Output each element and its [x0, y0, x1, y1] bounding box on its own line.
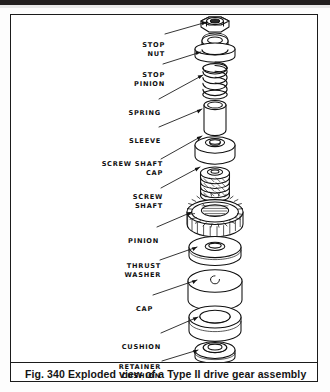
callout-label-stop-pinion: STOP PINION [105, 71, 165, 88]
exploded-view-drawing [11, 15, 319, 363]
part-sleeve-drawing [204, 100, 226, 135]
leader-stop-pinion [163, 52, 201, 64]
part-cushion-drawing [189, 306, 241, 341]
leader-stop-nut [165, 22, 207, 34]
figure-illustration-area: STOP NUT STOP PINION SPRING SLEEVE SCREW… [11, 15, 317, 363]
part-screw-shaft-cap-drawing [195, 137, 235, 164]
callout-label-cushion: CUSHION [99, 343, 161, 352]
part-screw-shaft-drawing [201, 167, 230, 202]
leader-pinion [157, 212, 192, 227]
callout-label-cap: CAP [107, 305, 153, 314]
leader-cap [153, 280, 197, 295]
callout-label-sleeve: SLEEVE [105, 137, 161, 146]
part-cap-drawing [188, 270, 242, 311]
leader-cushion [161, 317, 198, 333]
callout-label-pinion: PINION [103, 237, 159, 246]
part-retainer-cushion-drawing [195, 342, 235, 363]
part-thrust-washer-drawing [189, 236, 241, 265]
part-stop-nut-drawing [201, 17, 229, 32]
part-stop-pinion-drawing [195, 33, 235, 62]
leader-screw-shaft [161, 167, 200, 188]
callout-label-screw-shaft: SCREW SHAFT [105, 193, 163, 210]
leader-screw-shaft-cap [161, 136, 202, 159]
page-canvas: STOP NUT STOP PINION SPRING SLEEVE SCREW… [0, 0, 330, 392]
callout-label-stop-nut: STOP NUT [113, 41, 165, 58]
figure-frame: STOP NUT STOP PINION SPRING SLEEVE SCREW… [10, 14, 318, 382]
callout-label-spring: SPRING [105, 109, 161, 118]
part-spring-drawing [203, 62, 227, 99]
leader-arrowheads [187, 21, 207, 353]
leader-thrust-washer [160, 247, 197, 260]
callout-label-thrust-washer: THRUST WASHER [99, 262, 161, 279]
leader-spring [159, 75, 203, 99]
scan-edge-band-fade [0, 5, 330, 8]
leader-sleeve [159, 109, 202, 127]
callout-label-screw-shaft-cap: SCREW SHAFT CAP [87, 160, 163, 177]
part-pinion-drawing [187, 193, 243, 236]
leader-retainer-cushion [162, 350, 198, 361]
figure-caption: Fig. 340 Exploded view of a Type II driv… [11, 364, 317, 383]
